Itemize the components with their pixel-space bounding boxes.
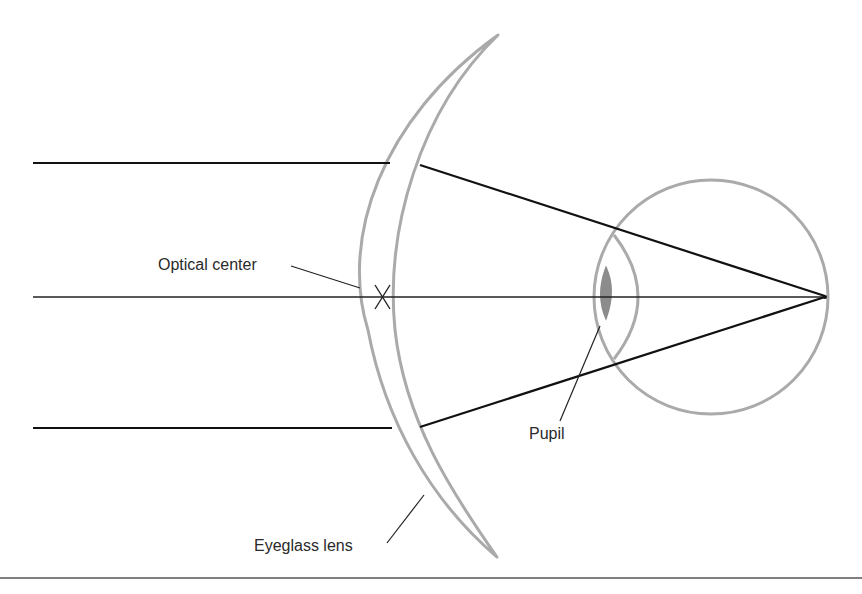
eyeglass-lens-leader [387,495,424,543]
optics-diagram [0,0,862,594]
eyeglass-lens [359,35,498,557]
focal-point [823,295,827,299]
optical-center-label: Optical center [158,256,257,274]
refracted-ray-top [420,165,825,296]
optical-center-leader [291,266,360,288]
pupil-leader [560,326,600,421]
eyeglass-lens-label: Eyeglass lens [254,537,353,555]
pupil-label: Pupil [529,425,565,443]
refracted-ray-bottom [420,297,825,427]
pupil [601,268,611,318]
